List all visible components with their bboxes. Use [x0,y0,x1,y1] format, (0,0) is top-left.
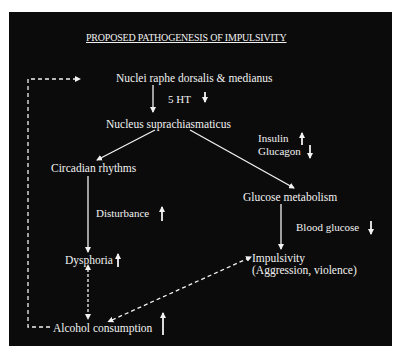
arrow-alcohol-impulsivity [112,257,251,320]
arrow-scn-to-glucose [190,130,294,188]
arrow-scn-to-circadian [97,130,155,160]
diagram-arrows [0,0,401,360]
arrow-feedback-alcohol-to-raphe [28,79,80,327]
